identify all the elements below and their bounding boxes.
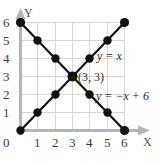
y-tick-label-1: 1 [3,106,10,119]
y-axis-label: Y [24,7,33,19]
x-tick-label-0: 0 [3,136,10,149]
y-tick-label-2: 2 [3,88,10,101]
x-tick-label-3: 3 [69,136,76,149]
x-tick-label-1: 1 [34,136,41,149]
x-axis-label: X [143,136,152,148]
label-line-y-equals-neg-x-plus-6: y = −x + 6 [96,90,149,102]
y-tick-label-3: 3 [3,70,10,83]
y-tick-label-5: 5 [3,34,10,47]
x-tick-label-6: 6 [121,136,128,149]
graph-figure: 6 5 4 3 2 1 0 1 2 3 4 5 6 Y X y = x y = … [0,0,160,163]
x-tick-label-5: 5 [104,136,111,149]
x-tick-label-2: 2 [52,136,59,149]
x-axis-arrowhead [138,126,150,136]
y-tick-label-4: 4 [3,52,10,65]
label-line-y-equals-x: y = x [97,50,122,62]
x-tick-label-4: 4 [86,136,93,149]
y-tick-label-6: 6 [3,16,10,29]
intersection-point-label: (3, 3) [78,71,104,83]
